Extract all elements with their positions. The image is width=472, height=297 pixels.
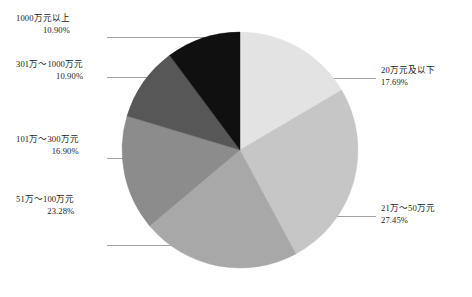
callout-category-51wan-to-100wan: 51万～100万元 (16, 194, 74, 206)
callout-21wan-to-50wan: 21万～50万元 27.45% (381, 203, 435, 226)
callout-percent-101wan-to-300wan: 16.90% (16, 146, 79, 158)
callout-20wan-and-below: 20万元及以下 17.69% (381, 65, 435, 88)
callout-301wan-to-1000wan: 301万～1000万元 10.90% (16, 59, 83, 82)
callout-category-21wan-to-50wan: 21万～50万元 (381, 203, 435, 215)
pie-slices-group (122, 32, 358, 268)
callout-percent-51wan-to-100wan: 23.28% (16, 206, 74, 218)
callout-percent-21wan-to-50wan: 27.45% (381, 215, 435, 227)
callout-51wan-to-100wan: 51万～100万元 23.28% (16, 194, 74, 217)
callout-percent-301wan-to-1000wan: 10.90% (16, 71, 83, 83)
callout-category-101wan-to-300wan: 101万～300万元 (16, 134, 79, 146)
callout-percent-20wan-and-below: 17.69% (381, 77, 435, 89)
pie-chart-figure: 1000万元以上 10.90% 301万～1000万元 10.90% 101万～… (0, 0, 472, 297)
callout-101wan-to-300wan: 101万～300万元 16.90% (16, 134, 79, 157)
callout-above-1000wan: 1000万元以上 10.90% (16, 13, 70, 36)
callout-category-301wan-to-1000wan: 301万～1000万元 (16, 59, 83, 71)
callout-percent-above-1000wan: 10.90% (16, 25, 70, 37)
callout-category-20wan-and-below: 20万元及以下 (381, 65, 435, 77)
callout-category-above-1000wan: 1000万元以上 (16, 13, 70, 25)
